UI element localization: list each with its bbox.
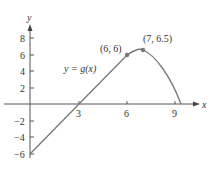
y-tick-6: 6 [20, 50, 25, 61]
x-axis-label: x [201, 99, 207, 110]
x-tick-3: 3 [76, 108, 81, 119]
y-axis: y 8 6 4 2 −2 −4 −6 [14, 12, 34, 160]
chart: x 3 6 9 y 8 6 4 2 −2 −4 −6 (6, 6) (7, 6.… [0, 0, 219, 170]
y-tick-8: 8 [20, 33, 25, 44]
point-7-6.5 [141, 48, 145, 52]
point-6-6 [125, 53, 129, 57]
y-tick-neg6: −6 [14, 149, 25, 160]
x-tick-6: 6 [124, 108, 129, 119]
y-tick-2: 2 [20, 83, 25, 94]
x-tick-9: 9 [172, 108, 177, 119]
curve-g [30, 49, 181, 154]
y-tick-neg4: −4 [14, 132, 25, 143]
function-label: y = g(x) [63, 63, 97, 75]
annotation-7-6.5: (7, 6.5) [143, 33, 172, 45]
x-axis: x 3 6 9 [4, 99, 207, 120]
annotation-6-6: (6, 6) [100, 43, 122, 55]
y-axis-arrow-icon [28, 24, 33, 31]
series-g [30, 48, 181, 154]
x-axis-arrow-icon [193, 102, 200, 107]
y-axis-label: y [26, 12, 32, 23]
y-tick-neg2: −2 [14, 116, 25, 127]
y-tick-4: 4 [20, 66, 25, 77]
